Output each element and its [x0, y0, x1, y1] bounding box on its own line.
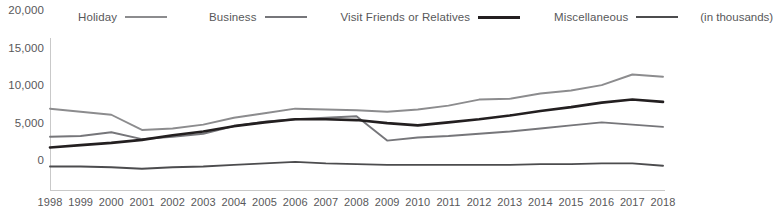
legend-label-visit-friends-or-relatives: Visit Friends or Relatives [341, 11, 471, 23]
x-tick-2013: 2013 [497, 196, 522, 208]
y-tick-20000: 20,000 [0, 4, 44, 16]
x-tick-2003: 2003 [191, 196, 216, 208]
line-swatch-icon [125, 16, 167, 18]
x-tick-2014: 2014 [528, 196, 553, 208]
legend-item-business[interactable]: Business [209, 11, 312, 23]
legend-item-miscellaneous[interactable]: Miscellaneous [554, 11, 684, 23]
series-line-miscellaneous [50, 162, 663, 169]
legend-label-holiday: Holiday [78, 11, 117, 23]
x-tick-2008: 2008 [344, 196, 369, 208]
x-tick-1998: 1998 [38, 196, 63, 208]
x-tick-2007: 2007 [313, 196, 338, 208]
x-tick-2006: 2006 [283, 196, 308, 208]
x-axis-labels: 1998199920002001200220032004200520062007… [0, 196, 669, 216]
x-tick-2010: 2010 [405, 196, 430, 208]
x-tick-2001: 2001 [130, 196, 155, 208]
x-tick-2004: 2004 [221, 196, 246, 208]
chart-legend: Holiday Business Visit Friends or Relati… [0, 7, 669, 27]
series-lines [0, 30, 669, 195]
x-tick-2009: 2009 [375, 196, 400, 208]
legend-label-business: Business [209, 11, 256, 23]
x-tick-2000: 2000 [99, 196, 124, 208]
x-tick-2005: 2005 [252, 196, 277, 208]
x-tick-2016: 2016 [589, 196, 614, 208]
legend-item-holiday[interactable]: Holiday [78, 11, 173, 23]
legend-item-visit-friends-or-relatives[interactable]: Visit Friends or Relatives [341, 11, 527, 23]
x-tick-2017: 2017 [620, 196, 645, 208]
x-tick-2011: 2011 [436, 196, 460, 208]
plot-area [0, 30, 669, 195]
series-line-holiday [50, 74, 663, 129]
x-tick-2002: 2002 [160, 196, 185, 208]
line-swatch-icon [265, 16, 307, 18]
legend-label-miscellaneous: Miscellaneous [554, 11, 628, 23]
legend-units-note: (in thousands) [700, 11, 773, 23]
x-tick-2018: 2018 [651, 196, 676, 208]
line-swatch-icon [636, 16, 678, 18]
x-tick-1999: 1999 [68, 196, 93, 208]
x-tick-2015: 2015 [559, 196, 584, 208]
line-swatch-icon [478, 16, 520, 19]
x-tick-2012: 2012 [467, 196, 492, 208]
series-line-visit-friends-or-relatives [50, 100, 663, 148]
